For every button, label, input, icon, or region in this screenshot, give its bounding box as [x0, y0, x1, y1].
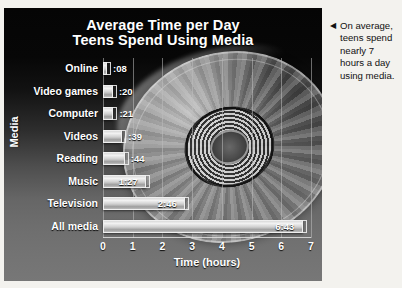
chart-panel: Average Time per Day Teens Spend Using M…: [4, 8, 322, 281]
bar-reading: [103, 152, 125, 165]
x-axis-ticks: 01234567: [103, 240, 311, 254]
plot-area: Online:08Video games:20Computer:21Videos…: [103, 58, 311, 238]
category-label-videos: Videos: [64, 127, 98, 146]
bar-end-cap: [125, 152, 129, 165]
chart-title-line-2: Teens Spend Using Media: [4, 33, 322, 48]
bar-end-cap: [185, 197, 189, 210]
category-label-all-media: All media: [51, 217, 98, 236]
bar-value-label: :08: [113, 62, 127, 75]
bar-row: Computer:21: [103, 104, 311, 127]
bar-value-label: :39: [128, 130, 142, 143]
bar-video-games: [103, 85, 113, 98]
chart-title: Average Time per Day Teens Spend Using M…: [4, 18, 322, 48]
bar-row: Music1:27: [103, 172, 311, 195]
side-note-text: On average, teens spend nearly 7 hours a…: [330, 20, 400, 82]
x-tick-label-6: 6: [278, 240, 284, 252]
bar-value-label: :21: [119, 107, 133, 120]
bar-computer: [103, 107, 113, 120]
left-arrow-icon: ◀: [330, 20, 336, 32]
x-tick-label-2: 2: [160, 240, 166, 252]
x-tick-label-7: 7: [308, 240, 314, 252]
chart-title-line-1: Average Time per Day: [86, 17, 240, 33]
bar-row: Online:08: [103, 59, 311, 82]
x-axis-label: Time (hours): [103, 256, 311, 268]
x-tick-label-0: 0: [100, 240, 106, 252]
bar-row: Television2:46: [103, 194, 311, 217]
bar-value-label: :44: [131, 152, 145, 165]
bar-value-label: :20: [119, 85, 133, 98]
category-label-television: Television: [47, 194, 98, 213]
bar-end-cap: [146, 175, 150, 188]
bar-end-cap: [113, 107, 117, 120]
side-note: ◀ On average, teens spend nearly 7 hours…: [330, 20, 400, 82]
bar-end-cap: [122, 130, 126, 143]
category-label-reading: Reading: [57, 149, 98, 168]
chart-page: Average Time per Day Teens Spend Using M…: [0, 0, 402, 288]
bar-row: All media6:43: [103, 217, 311, 240]
category-label-music: Music: [68, 172, 98, 191]
bar-all-media: [103, 220, 303, 233]
bar-value-label: 1:27: [119, 175, 138, 188]
bar-end-cap: [113, 85, 117, 98]
x-tick-label-5: 5: [249, 240, 255, 252]
category-label-online: Online: [65, 59, 98, 78]
bar-videos: [103, 130, 122, 143]
bar-rows: Online:08Video games:20Computer:21Videos…: [103, 58, 311, 238]
category-label-video-games: Video games: [33, 82, 98, 101]
bar-row: Videos:39: [103, 127, 311, 150]
bar-end-cap: [303, 220, 307, 233]
bar-end-cap: [107, 62, 111, 75]
x-tick-label-3: 3: [189, 240, 195, 252]
x-tick-label-1: 1: [130, 240, 136, 252]
bar-row: Video games:20: [103, 82, 311, 105]
gridline-7: [311, 58, 312, 238]
x-tick-label-4: 4: [219, 240, 225, 252]
bar-value-label: 2:46: [158, 197, 177, 210]
y-axis-label: Media: [8, 116, 20, 147]
bar-row: Reading:44: [103, 149, 311, 172]
category-label-computer: Computer: [48, 104, 98, 123]
bar-value-label: 6:43: [275, 220, 294, 233]
